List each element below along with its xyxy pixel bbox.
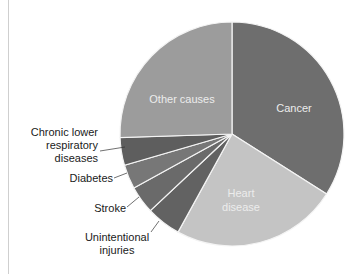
label-heart-disease-line2: disease [222,201,260,213]
pie-slice-other-causes [120,22,232,138]
pie-chart: Cancer Heart disease Other causes Chroni… [0,0,361,274]
label-clrd-line1: Chronic lower [31,126,99,138]
leader-line-diabetes [114,173,127,178]
label-other-causes: Other causes [149,93,215,105]
label-clrd-line3: diseases [55,152,99,164]
label-unintentional-injuries-line2: injuries [100,244,135,256]
label-stroke: Stroke [94,202,126,214]
leader-line-injuries [151,221,159,232]
label-unintentional-injuries-line1: Unintentional [85,231,149,243]
leader-line-stroke [127,197,139,207]
label-diabetes: Diabetes [70,172,114,184]
label-heart-disease-line1: Heart [228,187,255,199]
label-clrd-line2: respiratory [46,139,98,151]
label-cancer: Cancer [276,102,312,114]
